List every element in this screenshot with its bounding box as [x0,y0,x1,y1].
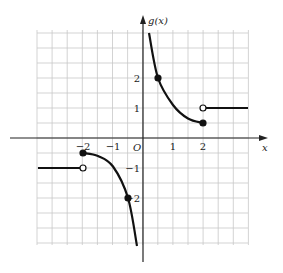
closed-point [200,120,206,126]
y-axis-arrow-icon [140,15,146,24]
closed-point [80,150,86,156]
x-axis-arrow-icon [259,135,268,141]
y-tick-label: 1 [134,103,140,114]
x-tick-label: −1 [106,141,121,152]
function-graph: g(x) x O −2−11221−1−2 [0,0,283,273]
y-tick-label: 2 [134,73,140,84]
closed-point [155,75,161,81]
x-tick-label: 2 [200,141,206,152]
y-tick-label: −1 [125,163,140,174]
axes [10,15,268,262]
closed-point [125,195,131,201]
x-tick-label: 1 [170,141,176,152]
origin-label: O [133,142,141,153]
y-axis-label: g(x) [148,15,168,26]
open-point [200,105,206,111]
open-point [80,165,86,171]
x-axis-label: x [262,142,268,153]
